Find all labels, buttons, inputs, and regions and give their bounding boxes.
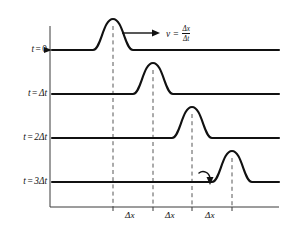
velocity-arrow-head-icon (152, 30, 160, 37)
velocity-equals-sign: = (170, 29, 181, 39)
time-label-t2: t=2Δt (23, 133, 47, 142)
velocity-denominator: Δt (182, 33, 190, 42)
time-label-t3-value: 3Δt (34, 176, 47, 186)
velocity-fraction: Δx Δt (181, 25, 190, 43)
wave-curve-t2 (52, 107, 279, 138)
time-label-t0-value: 0 (42, 44, 47, 54)
time-label-t0: t=0 (31, 45, 47, 54)
spacing-label-3: Δx (205, 211, 214, 220)
plot-canvas (0, 0, 293, 235)
time-label-t2-value: 2Δt (34, 132, 47, 142)
wave-curve-t1 (52, 63, 279, 94)
wave-curve-t3 (52, 151, 279, 182)
spacing-label-2: Δx (165, 211, 174, 220)
wave-pulse-figure: t=0 t=Δt t=2Δt t=3Δt v = Δx Δt Δx Δx Δx (0, 0, 293, 235)
time-label-t1-value: Δt (39, 88, 47, 98)
time-label-t1-eq: = (31, 88, 39, 98)
time-label-t3: t=3Δt (23, 177, 47, 186)
time-label-t2-eq: = (26, 132, 34, 142)
time-label-t3-eq: = (26, 176, 34, 186)
time-label-t1: t=Δt (28, 89, 47, 98)
spacing-label-1: Δx (125, 211, 134, 220)
velocity-numerator: Δx (181, 25, 190, 33)
velocity-equation: v = Δx Δt (166, 25, 191, 43)
